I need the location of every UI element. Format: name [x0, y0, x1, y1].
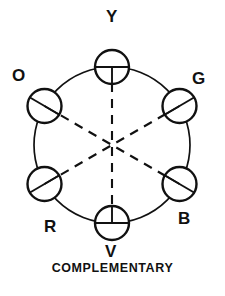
node-red[interactable]	[28, 167, 62, 201]
label-yellow: Y	[106, 8, 117, 25]
label-red: R	[44, 218, 56, 235]
label-orange: O	[12, 67, 25, 84]
node-blue[interactable]	[163, 167, 197, 201]
complementary-color-wheel-figure: Y G B V R O COMPLEMENTARY	[0, 0, 225, 296]
label-green: G	[192, 70, 205, 87]
node-violet[interactable]	[95, 206, 129, 240]
node-orange[interactable]	[28, 89, 62, 123]
node-yellow[interactable]	[95, 50, 129, 84]
label-blue: B	[178, 210, 190, 227]
node-green[interactable]	[163, 89, 197, 123]
figure-caption: COMPLEMENTARY	[0, 261, 225, 275]
label-violet: V	[105, 243, 116, 260]
